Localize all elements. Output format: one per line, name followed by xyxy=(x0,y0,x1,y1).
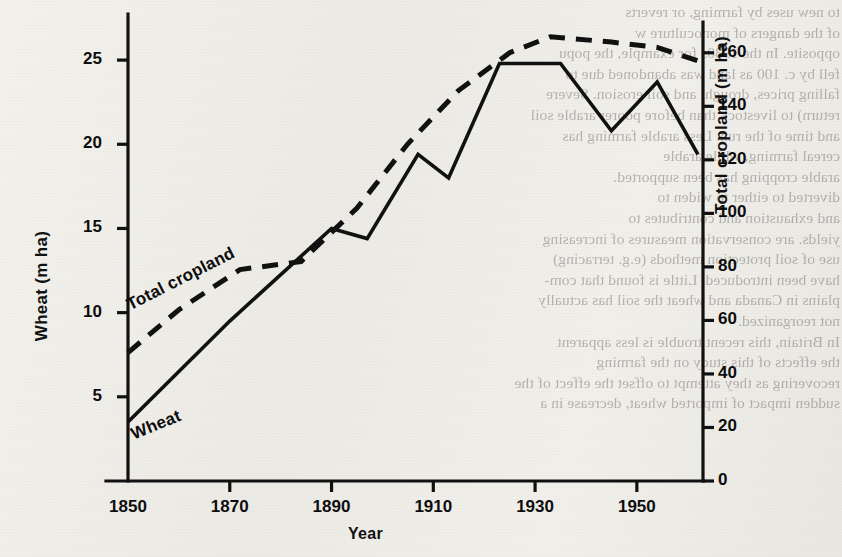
x-tick-label: 1910 xyxy=(398,497,468,517)
x-tick-label: 1930 xyxy=(500,497,570,517)
y-tick-label-right: 60 xyxy=(718,309,770,329)
x-tick-label: 1870 xyxy=(195,497,265,517)
y-tick-label-right: 120 xyxy=(718,149,770,169)
y-tick-label-right: 0 xyxy=(718,470,770,490)
y-tick-label-left: 15 xyxy=(60,217,102,237)
x-tick-label: 1890 xyxy=(297,497,367,517)
y-tick-label-right: 40 xyxy=(718,363,770,383)
y-tick-label-left: 5 xyxy=(60,386,102,406)
y-axis-title-left: Wheat (m ha) xyxy=(32,206,52,366)
y-tick-label-left: 25 xyxy=(60,49,102,69)
y-tick-label-right: 20 xyxy=(718,416,770,436)
y-tick-label-left: 20 xyxy=(60,133,102,153)
y-tick-label-left: 10 xyxy=(60,302,102,322)
x-axis-title: Year xyxy=(348,525,383,543)
y-tick-label-right: 160 xyxy=(718,42,770,62)
y-tick-label-right: 140 xyxy=(718,95,770,115)
series-line-wheat xyxy=(128,63,698,422)
x-tick-label: 1950 xyxy=(602,497,672,517)
y-tick-label-right: 80 xyxy=(718,256,770,276)
y-tick-label-right: 100 xyxy=(718,202,770,222)
chart-wheat-and-total-cropland: Wheat (m ha) Total cropland (m ha) Year … xyxy=(0,0,842,557)
series-line-total-cropland xyxy=(128,37,698,353)
x-tick-label: 1850 xyxy=(93,497,163,517)
